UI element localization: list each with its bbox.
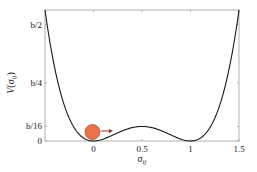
plot-axes — [45, 10, 239, 141]
x-tick-label: 1.5 — [233, 144, 245, 154]
x-tick-label: 0 — [91, 144, 96, 154]
y-axis-label: V(σij) — [5, 72, 18, 94]
curve-line — [45, 10, 239, 141]
arrow-head-icon — [109, 129, 113, 133]
potential-chart: 00.511.50b/16b/4b/2 σij V(σij) — [0, 0, 257, 172]
y-tick-label: b/4 — [30, 78, 42, 88]
y-tick-label: b/2 — [30, 20, 42, 30]
ball-marker — [85, 125, 100, 140]
plot-frame — [45, 10, 239, 141]
x-axis-label: σij — [138, 153, 147, 166]
y-tick-label: 0 — [38, 136, 43, 146]
y-tick-label: b/16 — [26, 121, 43, 131]
x-tick-label: 1 — [188, 144, 193, 154]
potential-curve — [45, 10, 239, 141]
